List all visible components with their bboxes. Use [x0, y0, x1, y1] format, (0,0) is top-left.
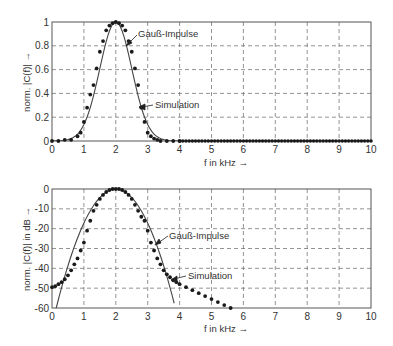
x-tick-label: 9 — [336, 311, 342, 322]
x-tick-label: 1 — [81, 311, 87, 322]
y-tick-label: 0.2 — [35, 112, 49, 123]
x-tick-label: 1 — [81, 144, 87, 155]
x-tick-label: 8 — [304, 311, 310, 322]
annotation-arrows — [126, 35, 186, 282]
x-tick-label: 2 — [113, 144, 119, 155]
y-tick-label: -10 — [35, 203, 50, 214]
y-tick-label: -60 — [35, 303, 50, 314]
y-tick-label: 0 — [43, 136, 49, 147]
y-tick-label: 0.6 — [35, 64, 49, 75]
simulation-dots — [50, 187, 232, 310]
y-tick-label: 0.8 — [35, 40, 49, 51]
x-tick-label: 3 — [145, 144, 151, 155]
x-tick-label: 4 — [177, 311, 183, 322]
y-tick-label: -20 — [35, 223, 50, 234]
x-tick-label: 5 — [209, 311, 215, 322]
y-tick-label: -50 — [35, 283, 50, 294]
x-tick-label: 0 — [49, 311, 55, 322]
bottom-y-axis-label: norm. |C(f)| in dB → — [21, 207, 32, 291]
x-tick-label: 4 — [177, 144, 183, 155]
bottom-plot: 0123456789100-10-20-30-40-50-60 — [35, 184, 377, 323]
y-tick-label: 0 — [43, 184, 49, 195]
y-tick-label: -40 — [35, 263, 50, 274]
x-tick-label: 7 — [273, 144, 279, 155]
top-annotation-gauss: Gauß-Impulse — [138, 28, 198, 39]
x-tick-label: 7 — [273, 311, 279, 322]
y-tick-label: 1 — [43, 17, 49, 28]
top-plot: 01234567891000.20.40.60.81 — [35, 17, 377, 156]
y-tick-label: 0.4 — [35, 88, 49, 99]
x-tick-label: 10 — [365, 144, 377, 155]
y-tick-label: -30 — [35, 243, 50, 254]
bottom-annotation-gauss: Gauß-Impulse — [169, 230, 229, 241]
top-x-axis-label: f in kHz → — [204, 157, 248, 168]
bottom-annotation-simulation: Simulation — [188, 270, 232, 281]
x-tick-label: 5 — [209, 144, 215, 155]
x-tick-label: 6 — [241, 144, 247, 155]
x-tick-label: 10 — [365, 311, 377, 322]
x-tick-label: 3 — [145, 311, 151, 322]
x-tick-label: 6 — [241, 311, 247, 322]
top-annotation-simulation: Simulation — [155, 99, 199, 110]
x-tick-label: 9 — [336, 144, 342, 155]
x-tick-label: 0 — [49, 144, 55, 155]
top-y-axis-label: norm. |C(f)| → — [21, 52, 32, 112]
x-tick-label: 8 — [304, 144, 310, 155]
x-tick-label: 2 — [113, 311, 119, 322]
chart-figure: 01234567891000.20.40.60.81 0123456789100… — [0, 0, 393, 346]
bottom-x-axis-label: f in kHz → — [204, 323, 248, 334]
